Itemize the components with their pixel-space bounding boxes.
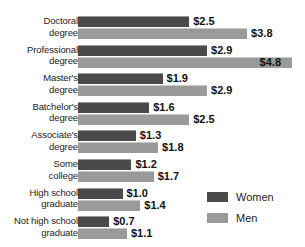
bar-value-label: $0.7 <box>113 215 134 227</box>
bar-men[interactable] <box>78 200 140 211</box>
category-label: Not high schoolgraduate <box>0 215 78 238</box>
category-label-line: Some <box>0 158 78 170</box>
category-label: Somecollege <box>0 158 78 181</box>
category-label-line: degree <box>0 84 78 96</box>
bar-women[interactable] <box>78 45 207 56</box>
bar-track: $2.5 <box>78 16 298 27</box>
legend-item-women[interactable]: Women <box>207 188 274 205</box>
category-label-line: Master's <box>0 72 78 84</box>
category-label-line: Batchelor's <box>0 101 78 113</box>
bar-women[interactable] <box>78 73 163 84</box>
category-label-line: Doctoral <box>0 15 78 27</box>
bar-value-label: $1.8 <box>162 141 183 153</box>
bar-men[interactable] <box>78 171 154 182</box>
legend-swatch-women-icon <box>207 192 228 202</box>
bar-men[interactable] <box>78 85 207 96</box>
category-label-line: Not high school <box>0 215 78 227</box>
bar-value-label: $1.6 <box>153 101 174 113</box>
legend-item-men[interactable]: Men <box>207 209 274 226</box>
bar-value-label: $4.8 <box>260 56 281 68</box>
category-label: High schoolgraduate <box>0 187 78 210</box>
bar-track: $1.2 <box>78 159 298 170</box>
bar-women[interactable] <box>78 102 149 113</box>
bar-track: $1.3 <box>78 130 298 141</box>
bar-value-label: $1.1 <box>131 227 152 239</box>
bar-track: $1.8 <box>78 142 298 153</box>
bar-men[interactable] <box>78 28 247 39</box>
bar-women[interactable] <box>78 130 136 141</box>
bar-value-label: $2.9 <box>211 84 232 96</box>
category-label-line: degree <box>0 141 78 153</box>
category-label-line: degree <box>0 27 78 39</box>
bar-track: $2.9 <box>78 85 298 96</box>
bar-track: $2.9 <box>78 45 298 56</box>
category-label-line: college <box>0 170 78 182</box>
category-label-line: Professional <box>0 44 78 56</box>
category-label-line: graduate <box>0 198 78 210</box>
bar-track: $2.5 <box>78 114 298 125</box>
bar-value-label: $1.4 <box>144 199 165 211</box>
bar-value-label: $1.3 <box>140 129 161 141</box>
bar-value-label: $3.8 <box>251 27 272 39</box>
bar-value-label: $1.0 <box>127 187 148 199</box>
bar-chart: Doctoraldegree$2.5$3.8Professionaldegree… <box>0 0 305 247</box>
bar-value-label: $2.5 <box>193 15 214 27</box>
category-label-line: degree <box>0 112 78 124</box>
bar-men[interactable] <box>78 142 158 153</box>
category-label-line: graduate <box>0 227 78 239</box>
chart-legend: Women Men <box>207 188 274 230</box>
category-label: Doctoraldegree <box>0 15 78 38</box>
bar-men[interactable] <box>78 228 127 239</box>
legend-swatch-men-icon <box>207 213 228 223</box>
bar-women[interactable] <box>78 159 131 170</box>
category-label-line: degree <box>0 55 78 67</box>
bar-track: $4.8 <box>78 57 298 68</box>
category-label: Professionaldegree <box>0 44 78 67</box>
bar-women[interactable] <box>78 16 189 27</box>
bar-men[interactable] <box>78 114 189 125</box>
legend-label-women: Women <box>236 191 274 203</box>
category-label: Master'sdegree <box>0 72 78 95</box>
bar-value-label: $2.9 <box>211 44 232 56</box>
legend-label-men: Men <box>236 212 257 224</box>
category-label-line: Associate's <box>0 129 78 141</box>
bar-track: $3.8 <box>78 28 298 39</box>
bar-track: $1.7 <box>78 171 298 182</box>
category-label-line: High school <box>0 187 78 199</box>
category-label: Batchelor'sdegree <box>0 101 78 124</box>
bar-value-label: $2.5 <box>193 113 214 125</box>
bar-women[interactable] <box>78 188 123 199</box>
category-label: Associate'sdegree <box>0 129 78 152</box>
bar-value-label: $1.9 <box>167 72 188 84</box>
bar-women[interactable] <box>78 216 109 227</box>
bar-value-label: $1.7 <box>158 170 179 182</box>
bar-track: $1.6 <box>78 102 298 113</box>
bar-track: $1.9 <box>78 73 298 84</box>
bar-value-label: $1.2 <box>135 158 156 170</box>
